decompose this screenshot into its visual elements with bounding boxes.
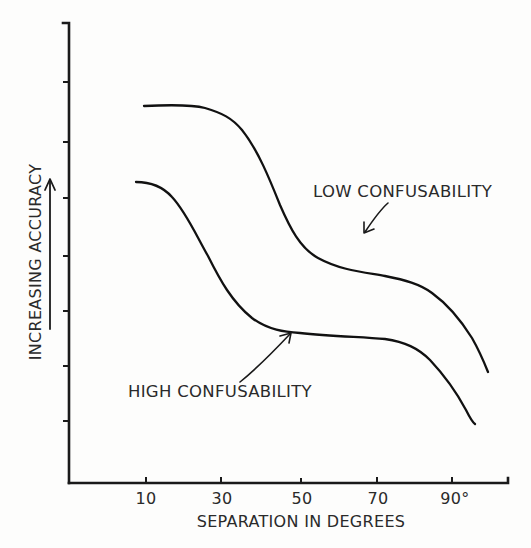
arrow-up-right-icon — [240, 333, 291, 382]
y-axis-title: INCREASING ACCURACY — [26, 164, 45, 361]
y-axis-title-group: INCREASING ACCURACY — [26, 164, 55, 361]
x-tick-label-90: 90° — [440, 489, 469, 508]
y-axis — [63, 23, 69, 483]
x-tick-label-30: 30 — [212, 489, 233, 508]
x-tick-labels: 10 30 50 70 90° — [136, 489, 470, 508]
x-axis-title: SEPARATION IN DEGREES — [197, 512, 406, 531]
arrow-down-left-icon — [364, 203, 388, 233]
x-axis — [69, 478, 508, 483]
axes — [63, 23, 508, 483]
high-confusability-annotation: HIGH CONFUSABILITY — [128, 333, 313, 401]
low-confusability-label: LOW CONFUSABILITY — [313, 182, 493, 201]
low-confusability-annotation: LOW CONFUSABILITY — [313, 182, 493, 233]
chart-canvas: 10 30 50 70 90° SEPARATION IN DEGREES IN… — [0, 0, 531, 548]
x-tick-label-10: 10 — [136, 489, 157, 508]
high-confusability-label: HIGH CONFUSABILITY — [128, 382, 313, 401]
x-tick-label-70: 70 — [368, 489, 389, 508]
low-confusability-curve — [144, 105, 488, 372]
chart: 10 30 50 70 90° SEPARATION IN DEGREES IN… — [0, 0, 531, 548]
x-tick-label-50: 50 — [292, 489, 313, 508]
up-arrow-icon — [45, 179, 55, 329]
